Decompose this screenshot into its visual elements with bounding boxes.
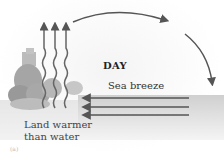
- land-warmer-label: Land warmer than water: [24, 119, 92, 143]
- panel-label: (a): [10, 145, 18, 152]
- day-label: DAY: [103, 60, 127, 71]
- land-label-line-2: than water: [24, 131, 92, 143]
- land-label-line-1: Land warmer: [24, 119, 92, 131]
- heat-arrow-icon: [65, 26, 68, 108]
- sea-breeze-arrows: [86, 98, 189, 115]
- vegetation-icon: [8, 48, 83, 110]
- arc-arrow-icon: [73, 12, 165, 22]
- sea-breeze-diagram: DAY Sea breeze Land warmer than water (a…: [0, 0, 224, 155]
- arc-arrow-icon: [185, 34, 212, 82]
- circulation-arrows: [73, 12, 212, 82]
- sea-breeze-label: Sea breeze: [108, 80, 164, 91]
